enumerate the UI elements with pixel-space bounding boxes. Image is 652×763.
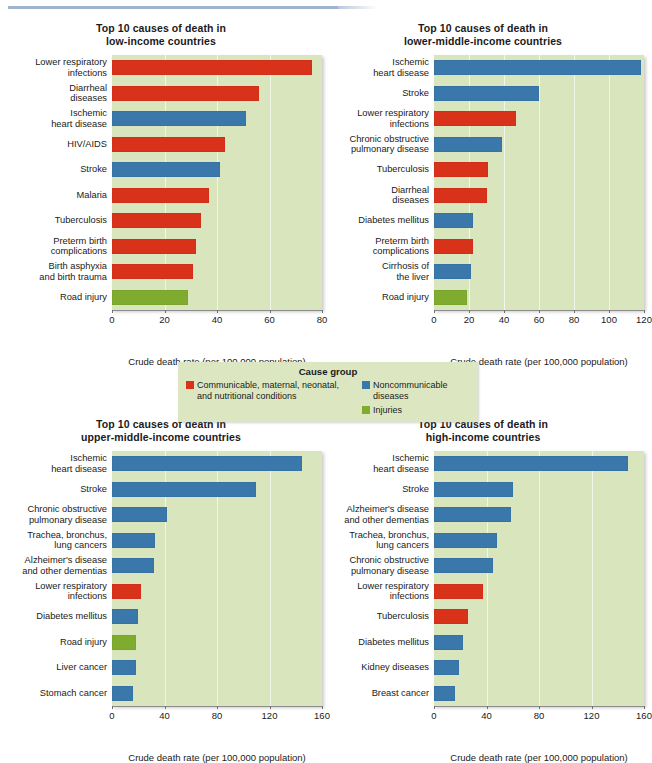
category-axis-labels: Lower respiratory infectionsDiarrheal di… — [0, 55, 112, 310]
bar — [112, 290, 188, 305]
category-label: Kidney diseases — [328, 655, 434, 681]
category-label: Chronic obstructive pulmonary disease — [328, 132, 434, 158]
axis-tick — [165, 706, 166, 709]
category-axis-labels: Ischemic heart diseaseStrokeAlzheimer's … — [322, 451, 434, 706]
axis-tick-label: 40 — [212, 314, 223, 325]
axis-tick — [644, 706, 645, 709]
bar-row — [434, 259, 644, 285]
axis-tick-label: 0 — [431, 710, 436, 721]
axis-title: Crude death rate (per 100,000 population… — [112, 752, 322, 763]
bar — [112, 533, 155, 548]
bar — [112, 188, 209, 203]
axis-tick-label: 20 — [159, 314, 170, 325]
axis-tick — [270, 310, 271, 313]
bar-row — [112, 477, 322, 503]
axis-title: Crude death rate (per 100,000 population… — [434, 752, 644, 763]
legend-item-noncommunicable: Noncommunicable diseases — [362, 380, 470, 402]
bar-row — [434, 451, 644, 477]
chart-title: Top 10 causes of death in low-income cou… — [0, 22, 322, 48]
axis-tick-label: 60 — [264, 314, 275, 325]
plot-area — [112, 55, 322, 310]
bar-row — [112, 55, 322, 81]
bar — [112, 660, 136, 675]
bar — [434, 584, 483, 599]
value-axis: 020406080 — [112, 310, 322, 340]
axis-tick — [644, 310, 645, 313]
chart-panel-high-income: Top 10 causes of death in high-income co… — [322, 418, 644, 763]
bar-row — [112, 81, 322, 107]
legend: Cause group Communicable, maternal, neon… — [178, 362, 478, 422]
bar — [112, 264, 193, 279]
bar — [434, 482, 513, 497]
bar — [112, 239, 196, 254]
axis-tick-label: 20 — [464, 314, 475, 325]
category-label: Breast cancer — [328, 681, 434, 707]
value-axis: 04080120160 — [112, 706, 322, 736]
axis-tick-label: 40 — [159, 710, 170, 721]
bar — [434, 635, 463, 650]
bar — [434, 660, 459, 675]
bar — [434, 137, 502, 152]
bar-row — [434, 477, 644, 503]
bar — [112, 584, 141, 599]
bar-row — [112, 451, 322, 477]
axis-tick — [434, 310, 435, 313]
axis-tick-label: 160 — [636, 710, 652, 721]
bar — [434, 264, 471, 279]
bar — [112, 162, 220, 177]
axis-tick-label: 120 — [262, 710, 278, 721]
axis-tick — [609, 310, 610, 313]
bar — [112, 686, 133, 701]
bar-row — [112, 579, 322, 605]
bar-row — [434, 55, 644, 81]
category-label: Diarrheal diseases — [328, 183, 434, 209]
bar-row — [434, 234, 644, 260]
legend-label-communicable: Communicable, maternal, neonatal, and nu… — [197, 380, 339, 402]
plot-area — [112, 451, 322, 706]
bar-row — [112, 285, 322, 311]
bar — [434, 456, 628, 471]
bar — [434, 239, 473, 254]
bar-row — [434, 81, 644, 107]
legend-swatch-noncommunicable — [362, 381, 370, 389]
bar — [434, 213, 473, 228]
plot-area — [434, 55, 644, 310]
category-label: Diabetes mellitus — [328, 630, 434, 656]
bar — [434, 290, 467, 305]
bar-row — [434, 106, 644, 132]
legend-item-injuries: Injuries — [362, 405, 470, 416]
axis-tick — [165, 310, 166, 313]
bar — [434, 86, 539, 101]
bar-row — [112, 528, 322, 554]
category-label: Stroke — [328, 81, 434, 107]
bar — [434, 162, 488, 177]
axis-tick-label: 0 — [431, 314, 436, 325]
category-label: Preterm birth complications — [328, 234, 434, 260]
category-label: Diabetes mellitus — [6, 604, 112, 630]
category-label: Ischemic heart disease — [328, 451, 434, 477]
axis-tick-label: 0 — [109, 710, 114, 721]
category-label: Stroke — [6, 157, 112, 183]
bar-row — [112, 259, 322, 285]
bar — [434, 558, 493, 573]
header-rule-fade — [338, 6, 378, 9]
bar — [112, 213, 201, 228]
category-label: Trachea, bronchus, lung cancers — [328, 528, 434, 554]
axis-tick-label: 120 — [636, 314, 652, 325]
bar-row — [112, 183, 322, 209]
legend-title: Cause group — [186, 366, 470, 377]
bar — [112, 635, 136, 650]
legend-item-communicable: Communicable, maternal, neonatal, and nu… — [186, 380, 354, 402]
category-label: Lower respiratory infections — [328, 579, 434, 605]
category-label: HIV/AIDS — [6, 132, 112, 158]
bar — [112, 558, 154, 573]
axis-tick — [539, 310, 540, 313]
category-label: Diarrheal diseases — [6, 81, 112, 107]
bar-row — [112, 630, 322, 656]
value-axis: 04080120160 — [434, 706, 644, 736]
axis-tick — [112, 706, 113, 709]
bar-row — [434, 655, 644, 681]
bar — [112, 507, 167, 522]
bar-row — [112, 106, 322, 132]
axis-tick-label: 80 — [534, 710, 545, 721]
